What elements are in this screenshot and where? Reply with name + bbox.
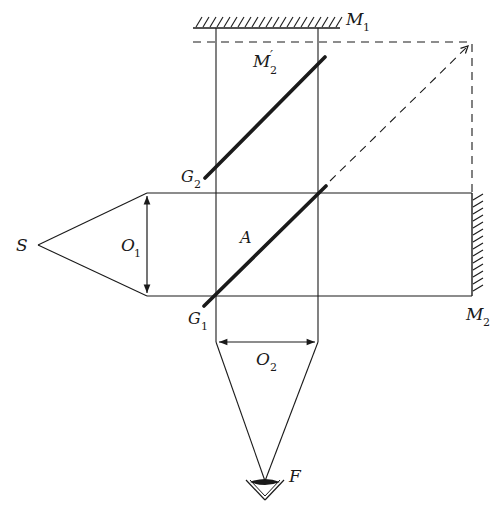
mirror-m2-hatching	[473, 194, 483, 291]
vertical-beam	[216, 28, 318, 342]
label-m1: M	[345, 9, 364, 29]
label-a: A	[238, 228, 252, 247]
label-m2-prime-mark: ′	[270, 48, 273, 63]
mirror-m1-hatching	[196, 17, 342, 27]
beamsplitter-a	[204, 186, 326, 306]
label-g1: G	[188, 309, 201, 328]
label-o2: O	[256, 349, 270, 369]
compensating-plate-g2	[205, 57, 325, 178]
label-g2-sub: 2	[194, 178, 201, 191]
label-m1-sub: 1	[363, 21, 370, 34]
label-m2-sub: 2	[483, 316, 490, 329]
label-o1-sub: 1	[134, 247, 141, 260]
label-f: F	[288, 466, 302, 486]
horizontal-beam	[147, 193, 472, 296]
mirror-m2	[472, 193, 483, 296]
label-m2-prime: M	[252, 51, 271, 71]
label-o2-sub: 2	[270, 361, 277, 374]
label-source-s: S	[16, 235, 28, 255]
label-m2-prime-sub: 2	[270, 64, 277, 77]
virtual-light-path	[193, 42, 472, 193]
label-g1-sub: 1	[201, 320, 208, 333]
mirror-m1	[193, 17, 342, 28]
eye-icon	[246, 479, 284, 500]
label-m2: M	[465, 304, 484, 324]
label-g2: G	[181, 167, 194, 186]
label-o1: O	[121, 235, 135, 255]
michelson-interferometer-diagram: M 1 S O 1 M ′ 2 G 2 A G 1	[0, 0, 503, 518]
